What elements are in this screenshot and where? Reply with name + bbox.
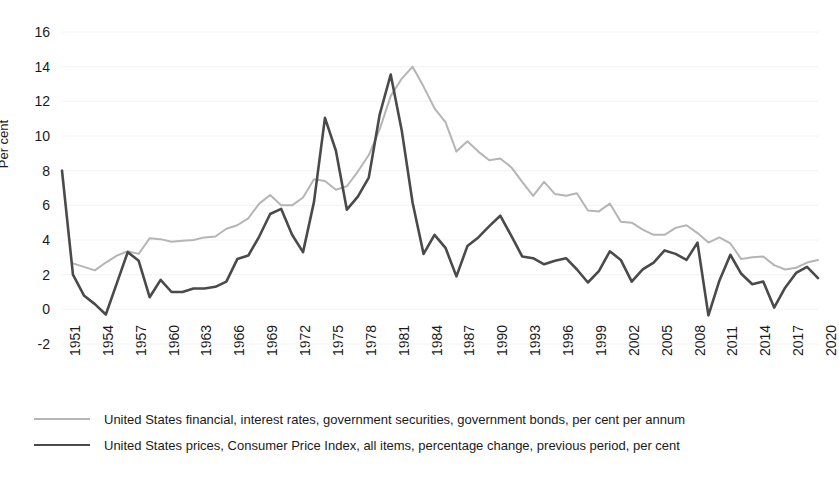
legend-item-consumer-price-index: United States prices, Consumer Price Ind…	[34, 432, 685, 458]
legend-label-consumer-price-index: United States prices, Consumer Price Ind…	[104, 438, 680, 453]
chart-legend: United States financial, interest rates,…	[34, 406, 685, 458]
light-line-swatch	[34, 418, 90, 420]
legend-label-government-bonds: United States financial, interest rates,…	[104, 412, 685, 427]
dark-line-swatch	[34, 444, 90, 446]
legend-item-government-bonds: United States financial, interest rates,…	[34, 406, 685, 432]
series-line	[62, 74, 818, 315]
